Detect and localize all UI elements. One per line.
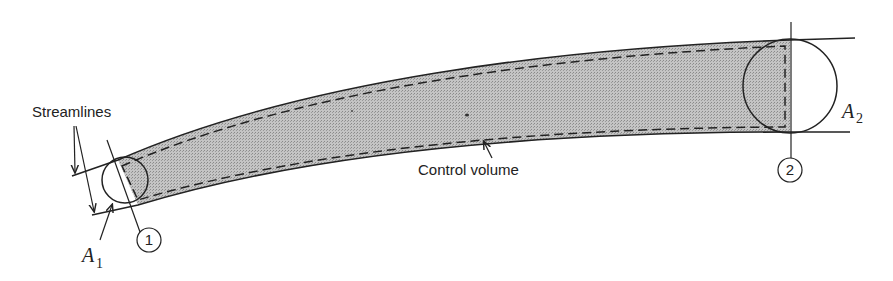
speck	[465, 114, 469, 117]
section-1-label: 1	[145, 231, 153, 248]
area-2-subscript: 2	[856, 111, 863, 126]
area-1-leader	[100, 205, 112, 240]
area-1-subscript: 1	[96, 256, 103, 271]
streamtube-diagram: 1 2 Streamlines A 1 A 2 Control volume	[0, 0, 893, 281]
streamlines-arrow-upper	[74, 126, 75, 172]
section-2-label: 2	[786, 161, 794, 178]
speck	[351, 110, 353, 112]
control-volume-label: Control volume	[418, 161, 519, 178]
area-1-symbol: A	[80, 244, 95, 266]
area-2-symbol: A	[840, 100, 855, 122]
streamlines-label: Streamlines	[32, 103, 111, 120]
